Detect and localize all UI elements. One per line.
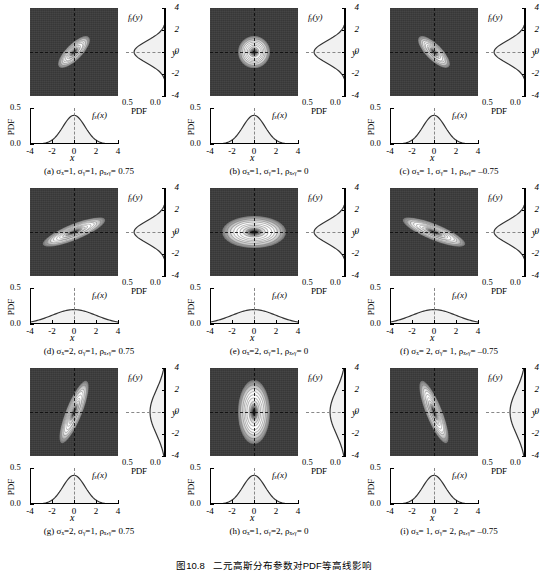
x-axis-tickmark (30, 320, 31, 324)
panel-caption-i: (i) σₓ= 1, σᵧ= 2, ρₓ,ᵧ= –0.75 (360, 526, 538, 536)
marginal-x-yaxis (390, 108, 391, 144)
x-axis-tickmark (298, 500, 299, 504)
figure-title: 二元高斯分布参数对PDF等高线影响 (213, 560, 372, 571)
x-axis-tickmark (210, 320, 211, 324)
marginal-x-zeroline (254, 108, 255, 144)
marginal-y-tickmark (342, 276, 346, 277)
marginal-y-pdf-label: PDF (311, 106, 327, 116)
marginal-x-zeroline (254, 288, 255, 324)
x-axis-tickmark (210, 500, 211, 504)
marginal-y-pdf-tick-min: 0.0 (510, 277, 521, 287)
x-axis-tickmark (30, 140, 31, 144)
marginal-x-tickmark (210, 468, 214, 469)
marginal-x-tickmark (390, 468, 394, 469)
marginal-y-tickmark (342, 254, 346, 255)
x-axis-tickmark (412, 320, 413, 324)
marginal-y-ticklabel: -4 (172, 90, 180, 100)
marginal-y-tickmark (162, 52, 166, 53)
panel-a: 420-2-4fᵧ(y)y0.50.0PDF0.50.0-4-2024PDFfₓ… (0, 0, 178, 180)
marginal-y-ticklabel: 4 (355, 2, 360, 12)
x-axis-label: x (250, 512, 254, 523)
joint-axis-v (434, 8, 435, 96)
marginal-y-tickmark (342, 30, 346, 31)
marginal-y-tickmark (342, 52, 346, 53)
x-axis-tickmark (52, 140, 53, 144)
marginal-x-function-label: fₓ(x) (92, 290, 107, 300)
marginal-x-yaxis (30, 108, 31, 144)
marginal-y-zeroline (126, 232, 166, 233)
x-axis-ticklabel: 2 (88, 326, 104, 336)
marginal-y-tickmark (162, 188, 166, 189)
marginal-y-pdf-label: PDF (311, 466, 327, 476)
x-axis-ticklabel: 2 (268, 506, 284, 516)
marginal-y-ticklabel: 2 (175, 24, 180, 34)
panel-caption-b: (b) σₓ=1, σᵧ=1, ρₓ,ᵧ= 0 (180, 166, 358, 176)
x-axis-ticklabel: -4 (202, 506, 218, 516)
marginal-y-ticklabel: -2 (532, 68, 540, 78)
x-axis-tickmark (434, 320, 435, 324)
x-axis-tickmark (96, 140, 97, 144)
marginal-y-zeroline (306, 412, 346, 413)
marginal-y-zeroline (126, 52, 166, 53)
marginal-x-pdf-ticklabel: 0.5 (10, 282, 21, 292)
marginal-y-tickmark (162, 368, 166, 369)
marginal-y-tickmark (522, 276, 526, 277)
marginal-y-tickmark (522, 8, 526, 9)
marginal-x-yaxis (30, 468, 31, 504)
marginal-x-function-label: fₓ(x) (452, 470, 467, 480)
x-axis-tickmark (276, 320, 277, 324)
marginal-x-function-label: fₓ(x) (272, 290, 287, 300)
marginal-y-tickmark (162, 254, 166, 255)
marginal-y-tickmark (522, 210, 526, 211)
joint-pdf-heatmap (210, 368, 298, 456)
x-axis-ticklabel: -2 (224, 506, 240, 516)
marginal-y-ticklabel: 2 (535, 384, 540, 394)
marginal-y-ticklabel: -4 (532, 450, 540, 460)
x-axis-tickmark (276, 140, 277, 144)
x-axis-tickmark (52, 320, 53, 324)
y-axis-label: y (172, 227, 176, 238)
x-axis-tickmark (390, 320, 391, 324)
x-axis-ticklabel: -2 (44, 506, 60, 516)
marginal-x-function-label: fₓ(x) (452, 110, 467, 120)
x-axis-ticklabel: -4 (22, 506, 38, 516)
joint-axis-v (254, 368, 255, 456)
panel-caption-d: (d) σₓ=2, σᵧ=1, ρₓ,ᵧ= 0.75 (0, 346, 178, 356)
marginal-y-ticklabel: -4 (172, 450, 180, 460)
x-axis-ticklabel: -4 (382, 326, 398, 336)
y-axis-label: y (172, 47, 176, 58)
joint-pdf-heatmap (30, 188, 118, 276)
x-axis-tickmark (96, 500, 97, 504)
marginal-y-tickmark (342, 188, 346, 189)
x-axis-tickmark (232, 500, 233, 504)
marginal-y-tickmark (162, 96, 166, 97)
marginal-x-function-label: fₓ(x) (92, 110, 107, 120)
marginal-y-ticklabel: 2 (175, 204, 180, 214)
marginal-y-pdf-label: PDF (131, 106, 147, 116)
marginal-x-yaxis (390, 468, 391, 504)
marginal-x-pdf-label: PDF (186, 472, 196, 502)
marginal-y-tickmark (162, 30, 166, 31)
marginal-y-ticklabel: 4 (535, 362, 540, 372)
joint-pdf-heatmap (30, 8, 118, 96)
marginal-y-tickmark (162, 434, 166, 435)
marginal-y-zeroline (306, 232, 346, 233)
marginal-y-tickmark (342, 210, 346, 211)
panel-i: 420-2-4fᵧ(y)y0.50.0PDF0.50.0-4-2024PDFfₓ… (360, 360, 538, 540)
x-axis-tickmark (412, 500, 413, 504)
marginal-x-yaxis (210, 288, 211, 324)
x-axis-tickmark (254, 320, 255, 324)
x-axis-label: x (70, 332, 74, 343)
x-axis-tickmark (210, 140, 211, 144)
x-axis-ticklabel: -4 (22, 326, 38, 336)
x-axis-ticklabel: -4 (202, 146, 218, 156)
joint-pdf-heatmap (390, 8, 478, 96)
x-axis-ticklabel: -4 (382, 146, 398, 156)
marginal-x-zeroline (74, 108, 75, 144)
marginal-y-ticklabel: 4 (175, 2, 180, 12)
marginal-y-tickmark (522, 390, 526, 391)
marginal-y-function-label: fᵧ(y) (128, 372, 143, 382)
x-axis-ticklabel: -4 (382, 506, 398, 516)
marginal-x-tickmark (210, 108, 214, 109)
x-axis-tickmark (412, 140, 413, 144)
